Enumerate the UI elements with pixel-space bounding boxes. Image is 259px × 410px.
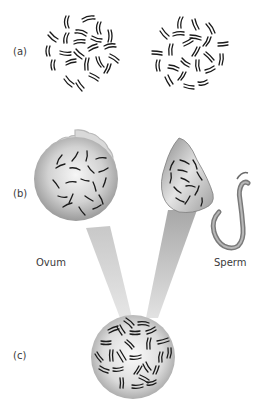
diagram-figure: (a) (b) (c) Ovum Sperm [0,0,259,410]
sperm-to-zygote-beam [146,210,197,318]
ovum-to-zygote-beam [86,226,132,318]
panel-label-c: (c) [13,351,26,361]
panel-label-a: (a) [13,47,27,57]
ovum-cell [34,130,118,221]
sperm-label: Sperm [214,258,247,268]
chromosome-cluster-right [152,17,228,89]
ovum-label: Ovum [36,258,66,268]
panel-label-b: (b) [13,189,27,199]
diagram-canvas [0,0,259,410]
chromosome-cluster-left [46,16,119,91]
